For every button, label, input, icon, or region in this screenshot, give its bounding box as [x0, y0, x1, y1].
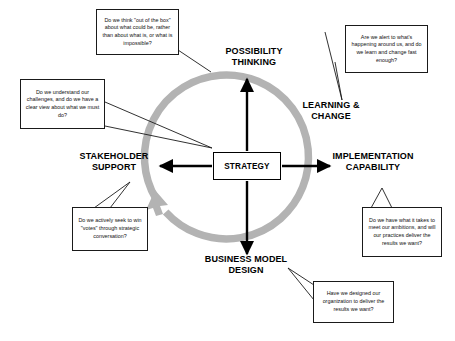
callout-implementation-capability-text: Do we have what it takes to meet our amb… — [366, 217, 438, 248]
leader-implementation-b — [382, 188, 392, 208]
leader-learning-change-b — [335, 62, 342, 100]
leader-strategy-clarity-a — [105, 102, 212, 148]
strategy-box: STRATEGY — [213, 152, 281, 180]
leader-learning-change-a — [325, 32, 342, 100]
diagram-canvas: STRATEGY POSSIBILITY THINKING LEARNING &… — [0, 0, 455, 341]
leader-stakeholder-support-a — [94, 182, 130, 208]
callout-possibility-thinking: Do we think "out of the box" about what … — [96, 9, 179, 55]
leader-stakeholder-support-b — [110, 182, 130, 208]
callout-strategy-clarity-text: Do we understand our challenges, and do … — [24, 89, 101, 120]
strategy-label: STRATEGY — [224, 162, 270, 171]
node-label-learning-change: LEARNING & CHANGE — [282, 100, 380, 121]
callout-stakeholder-support-text: Do we actively seek to win "votes" throu… — [76, 217, 144, 240]
node-label-business-model-design: BUSINESS MODEL DESIGN — [186, 254, 306, 275]
node-label-stakeholder-support: STAKEHOLDER SUPPORT — [64, 151, 164, 172]
callout-implementation-capability: Do we have what it takes to meet our amb… — [362, 207, 442, 257]
leader-strategy-clarity-b — [105, 126, 212, 148]
callout-business-model-design: Have we designed our organization to del… — [313, 281, 394, 323]
node-label-possibility-thinking: POSSIBILITY THINKING — [206, 46, 302, 67]
leader-implementation-a — [371, 188, 382, 208]
callout-stakeholder-support: Do we actively seek to win "votes" throu… — [72, 207, 148, 251]
callout-learning-change-text: Are we alert to what's happening around … — [349, 34, 424, 65]
callout-learning-change: Are we alert to what's happening around … — [345, 25, 428, 73]
node-label-implementation-capability: IMPLEMENTATION CAPABILITY — [312, 151, 434, 172]
callout-business-model-design-text: Have we designed our organization to del… — [317, 290, 390, 313]
callout-strategy-clarity: Do we understand our challenges, and do … — [20, 79, 105, 129]
callout-possibility-thinking-text: Do we think "out of the box" about what … — [100, 17, 175, 48]
